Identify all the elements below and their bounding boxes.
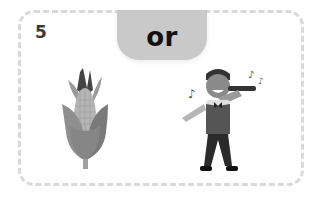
svg-text:♪: ♪ — [248, 69, 254, 80]
question-number: 5 — [35, 22, 47, 42]
svg-text:♪: ♪ — [188, 87, 196, 101]
option-singer[interactable]: ♪ ♪ ♪ — [178, 66, 268, 174]
option-corn[interactable] — [60, 66, 110, 172]
singer-icon: ♪ ♪ ♪ — [178, 66, 268, 174]
or-tab: or — [117, 10, 207, 60]
corn-icon — [60, 66, 110, 172]
svg-text:♪: ♪ — [258, 76, 264, 86]
connector-label: or — [146, 22, 178, 52]
